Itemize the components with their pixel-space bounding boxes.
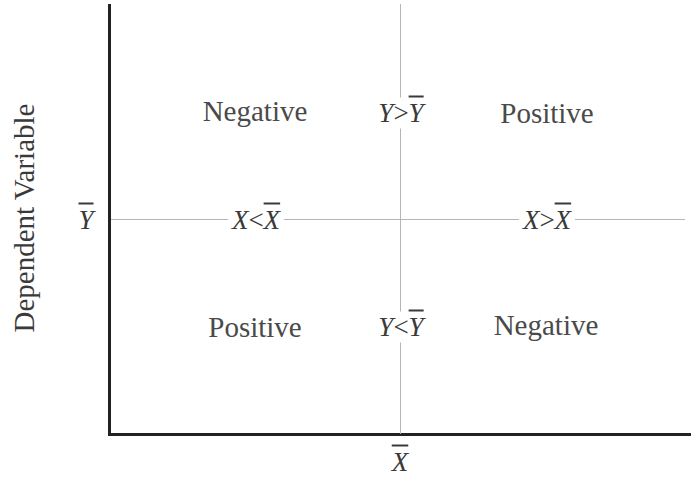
y-axis-label: Dependent Variable [8, 104, 41, 333]
y-axis [108, 4, 111, 436]
condition-left: X<X [228, 205, 284, 236]
condition-below: Y<Y [374, 312, 427, 343]
condition-above: Y>Y [374, 98, 427, 129]
quadrant-top-right-label: Positive [498, 97, 595, 130]
y-mean-tick: Y [78, 205, 93, 236]
y-mean-line [111, 219, 685, 220]
quadrant-bottom-left-label: Positive [206, 311, 303, 344]
quadrant-top-left-label: Negative [201, 95, 310, 128]
quadrant-bottom-right-label: Negative [492, 309, 601, 342]
x-mean-tick: X [392, 447, 409, 478]
condition-right: X>X [519, 205, 575, 236]
